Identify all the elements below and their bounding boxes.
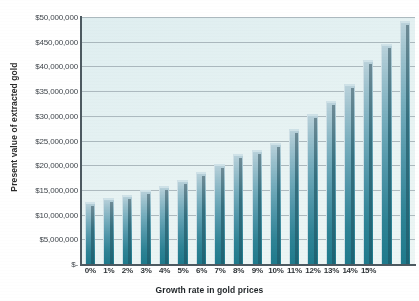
bar-side-shadow: [202, 176, 205, 264]
x-axis-tick-label: 4%: [155, 266, 174, 275]
y-axis-tick-label: $-: [71, 260, 78, 269]
bar-top-edge: [234, 154, 244, 156]
y-axis-tick-label: $450,00,000: [35, 37, 78, 46]
bar-side-shadow: [221, 168, 224, 264]
x-axis-tick-label: 8%: [229, 266, 248, 275]
bar-side-shadow: [147, 194, 150, 264]
bar: [400, 21, 410, 264]
bar: [159, 186, 169, 265]
bar-side-shadow: [128, 199, 131, 264]
y-axis-tick-label: $10,000,000: [35, 210, 78, 219]
bar-top-edge: [160, 186, 170, 188]
bar: [85, 202, 95, 264]
bar-top-edge: [141, 190, 151, 192]
x-axis-tick-label: 0%: [81, 266, 100, 275]
bar-side-shadow: [388, 48, 391, 264]
bar: [307, 114, 317, 264]
bar: [289, 129, 299, 264]
bar-side-shadow: [369, 64, 372, 264]
bar-side-shadow: [277, 147, 280, 265]
y-axis-tick-label: $35,000,000: [35, 87, 78, 96]
bar: [122, 195, 132, 264]
bar: [214, 164, 224, 264]
bar-side-shadow: [91, 206, 94, 264]
bar: [233, 154, 243, 264]
x-axis-tick-label: 2%: [118, 266, 137, 275]
x-axis-tick-label: 12%: [304, 266, 323, 275]
x-axis-tick-label: 13%: [322, 266, 341, 275]
y-axis-tick-label: $15,000,000: [35, 185, 78, 194]
bar-top-edge: [197, 172, 207, 174]
y-axis-line: [80, 16, 82, 265]
bar-top-edge: [104, 198, 114, 200]
x-axis-title: Growth rate in gold prices: [0, 285, 419, 295]
bar-top-edge: [123, 195, 133, 197]
bar-top-edge: [308, 114, 318, 116]
bar-side-shadow: [351, 88, 354, 264]
bar-side-shadow: [110, 202, 113, 264]
plot-area: [81, 17, 415, 264]
y-axis-tick-label: $25,000,000: [35, 136, 78, 145]
bars-layer: [81, 17, 415, 264]
bar: [381, 44, 391, 264]
y-axis-tick-label: $50,000,000: [35, 13, 78, 22]
bar-top-edge: [215, 164, 225, 166]
bar: [140, 190, 150, 264]
bar-chart: Present value of extracted gold $-$5,000…: [0, 0, 419, 301]
y-axis-tick-label: $30,000,000: [35, 111, 78, 120]
bar: [196, 172, 206, 264]
bar-top-edge: [86, 202, 96, 204]
bar-top-edge: [178, 180, 188, 182]
x-axis-tick-label: 9%: [248, 266, 267, 275]
x-axis-tick-label: 14%: [341, 266, 360, 275]
x-axis-tick-label: 3%: [137, 266, 156, 275]
bar-top-edge: [345, 84, 355, 86]
bar-top-edge: [253, 150, 263, 152]
x-axis-tick-labels: 0%1%2%3%4%5%6%7%8%9%10%11%12%13%14%15%: [81, 266, 415, 282]
y-axis-tick-labels: $-$5,000,000$10,000,000$15,000,000$20,00…: [14, 0, 78, 301]
bar-side-shadow: [258, 154, 261, 264]
x-axis-tick-label: 10%: [267, 266, 286, 275]
bar-side-shadow: [314, 118, 317, 264]
bar: [177, 180, 187, 265]
bar-side-shadow: [332, 105, 335, 264]
bar: [326, 101, 336, 264]
bar-top-edge: [290, 129, 300, 131]
bar-top-edge: [382, 44, 392, 46]
bar: [344, 84, 354, 264]
bar: [363, 60, 373, 264]
x-axis-tick-label: 11%: [285, 266, 304, 275]
x-axis-tick-label: 1%: [100, 266, 119, 275]
bar: [252, 150, 262, 264]
bar-top-edge: [401, 21, 411, 23]
bar-side-shadow: [165, 190, 168, 265]
y-axis-tick-label: $40,000,000: [35, 62, 78, 71]
bar-top-edge: [364, 60, 374, 62]
bar-side-shadow: [295, 133, 298, 264]
y-axis-tick-label: $20,000,000: [35, 161, 78, 170]
x-axis-tick-label: 5%: [174, 266, 193, 275]
bar: [103, 198, 113, 264]
bar-side-shadow: [406, 25, 409, 264]
x-axis-tick-label: 6%: [192, 266, 211, 275]
bar-side-shadow: [184, 184, 187, 265]
x-axis-tick-label: 15%: [359, 266, 378, 275]
x-axis-tick-label: 7%: [211, 266, 230, 275]
bar: [270, 143, 280, 265]
bar-side-shadow: [239, 158, 242, 264]
bar-top-edge: [327, 101, 337, 103]
y-axis-tick-label: $5,000,000: [39, 235, 78, 244]
bar-top-edge: [271, 143, 281, 145]
